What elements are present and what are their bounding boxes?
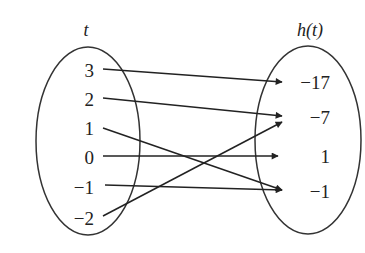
domain-value: −2 xyxy=(74,208,94,229)
domain-value: 0 xyxy=(85,147,95,168)
domain-value: 3 xyxy=(85,60,95,81)
range-value: 1 xyxy=(321,146,331,167)
mapping-diagram: t h(t) 3 2 1 0 −1 −2 −17 −7 1 −1 xyxy=(0,0,365,253)
range-value: −1 xyxy=(310,181,330,202)
domain-label: t xyxy=(83,20,89,40)
range-value: −7 xyxy=(310,107,330,128)
range-value: −17 xyxy=(300,72,330,93)
domain-value: −1 xyxy=(74,177,94,198)
mapping-arrow-neg2-to-neg7 xyxy=(103,122,282,216)
mapping-arrow-neg1-to-neg1 xyxy=(105,185,282,190)
mapping-arrow-3-to-neg17 xyxy=(103,69,282,82)
domain-value: 1 xyxy=(85,118,95,139)
mapping-arrow-2-to-neg7 xyxy=(103,98,282,116)
domain-value: 2 xyxy=(85,89,95,110)
range-label: h(t) xyxy=(297,20,323,41)
